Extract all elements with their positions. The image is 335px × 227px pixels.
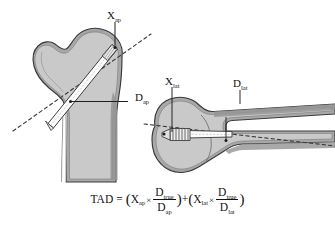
formula-times-1: ×: [145, 196, 152, 205]
lateral-femur-group: [144, 87, 335, 172]
formula-term2-x: Xlat: [193, 194, 208, 206]
formula-close-paren-1: ): [177, 192, 182, 207]
formula-term1-num-base: D: [155, 186, 163, 198]
formula-term2-numerator: Dtrue: [216, 186, 238, 200]
ap-femur-group: [13, 22, 151, 182]
formula-term1-num-sub: true: [164, 193, 174, 200]
formula-term2-fraction: Dtrue Dlat: [216, 186, 238, 213]
formula-close-paren-2: ): [239, 192, 244, 207]
label-x-ap: Xap: [107, 10, 121, 21]
label-x-lat-sub: lat: [173, 82, 180, 89]
formula-term2-den-base: D: [220, 201, 228, 213]
ap-d-measure-endpoint: [69, 100, 72, 103]
ap-x-tip-marker: [113, 46, 116, 49]
formula-term1-den-sub: ap: [166, 208, 172, 215]
formula-term1-fraction: Dtrue Dap: [153, 186, 175, 213]
label-d-lat-base: D: [233, 77, 241, 89]
figure-root: Xap Dap Xlat Dlat TAD = ( Xap × Dtrue Da…: [0, 0, 335, 227]
label-d-ap-sub: ap: [143, 98, 149, 105]
formula-term2-num-sub: true: [226, 193, 236, 200]
formula-term1-denominator: Dap: [155, 200, 173, 213]
label-x-lat: Xlat: [165, 76, 179, 87]
formula-times-2: ×: [208, 196, 215, 205]
formula-lhs: TAD: [91, 194, 114, 206]
label-x-ap-sub: ap: [115, 16, 121, 23]
label-d-ap: Dap: [135, 92, 149, 103]
formula-open-paren-1: (: [126, 192, 131, 207]
formula-term1-x: Xap: [131, 194, 145, 206]
lateral-x-tip-marker: [162, 132, 165, 135]
label-x-ap-base: X: [107, 9, 115, 21]
tad-formula: TAD = ( Xap × Dtrue Dap ) + ( Xlat × Dtr…: [0, 186, 335, 213]
label-x-lat-base: X: [165, 75, 173, 87]
formula-term1-den-base: D: [157, 201, 165, 213]
label-d-lat-sub: lat: [241, 84, 248, 91]
ap-lateral-cortex-shadow: [111, 92, 118, 180]
formula-equals: =: [113, 194, 126, 206]
lateral-screw-threads: [170, 129, 190, 141]
formula-term1-numerator: Dtrue: [153, 186, 175, 200]
lateral-d-measure-endpoint: [225, 139, 228, 142]
formula-open-paren-2: (: [188, 192, 193, 207]
formula-term2-denominator: Dlat: [218, 200, 237, 213]
tad-formula-row: TAD = ( Xap × Dtrue Dap ) + ( Xlat × Dtr…: [91, 186, 245, 213]
formula-term1-x-base: X: [131, 193, 139, 205]
label-d-ap-base: D: [135, 91, 143, 103]
formula-term2-den-sub: lat: [228, 208, 235, 215]
label-d-lat: Dlat: [233, 78, 247, 89]
